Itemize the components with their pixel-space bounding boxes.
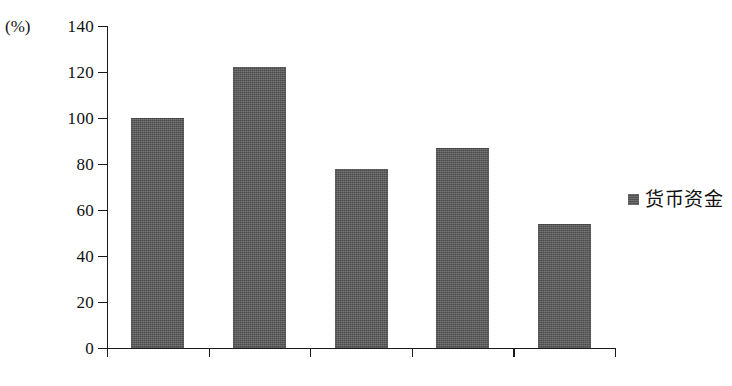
bar-2011 (335, 169, 388, 348)
y-tick-label: 40 (76, 248, 94, 265)
y-tick-mark (98, 72, 107, 73)
y-tick-label: 80 (76, 156, 94, 173)
y-tick-label: 60 (76, 202, 94, 219)
legend-swatch-icon (628, 194, 639, 205)
bar-chart-figure: (%) 020406080100120140 20132012201120102… (0, 0, 732, 386)
y-axis-line (107, 26, 108, 348)
x-tick-mark (412, 348, 413, 357)
y-tick-mark (98, 164, 107, 165)
x-tick-mark (310, 348, 311, 357)
bar-2009 (538, 224, 591, 348)
y-tick-mark (98, 348, 107, 349)
plot-area: 020406080100120140 20132012201120102009（… (107, 26, 615, 348)
chart-legend: 货币资金 (628, 190, 723, 209)
x-axis-line (107, 348, 615, 349)
y-tick-mark (98, 302, 107, 303)
y-tick-label: 120 (68, 64, 94, 81)
bar-2010 (436, 148, 489, 348)
bar-2012 (233, 67, 286, 348)
bar-2013 (131, 118, 184, 348)
x-tick-mark (107, 348, 108, 357)
y-axis-unit-label: (%) (5, 18, 30, 35)
y-tick-mark (98, 26, 107, 27)
y-tick-mark (98, 118, 107, 119)
x-tick-mark (209, 348, 210, 357)
y-tick-label: 20 (76, 294, 94, 311)
legend-label: 货币资金 (645, 190, 723, 209)
y-tick-label: 0 (85, 340, 94, 357)
y-tick-mark (98, 210, 107, 211)
y-tick-label: 140 (68, 18, 94, 35)
y-tick-label: 100 (68, 110, 94, 127)
y-tick-mark (98, 256, 107, 257)
x-tick-mark (615, 348, 616, 357)
x-tick-mark (513, 348, 514, 357)
